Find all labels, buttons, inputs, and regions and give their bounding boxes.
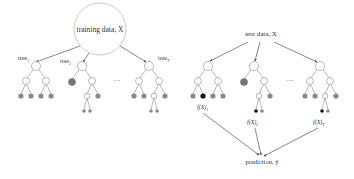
- tree-1: [18, 62, 53, 99]
- test-tree-T: [302, 62, 338, 113]
- arrow-output-2-to-prediction: [255, 128, 261, 155]
- prediction-label: prediction, ŷ: [246, 158, 280, 165]
- training-data-label: training data, X: [77, 25, 124, 34]
- ellipsis-right: ···: [287, 77, 294, 85]
- tree-2: [68, 62, 100, 113]
- test-data-label: test data, X: [245, 30, 277, 38]
- test-tree-2: [240, 62, 272, 113]
- arrow-to-test-tree-2: [255, 42, 260, 61]
- tree-T-label: treeT: [158, 55, 170, 63]
- tree-1-label: tree1: [18, 55, 29, 63]
- training-panel: training data, X tree1 tree2 treeT: [18, 3, 170, 113]
- tree-T: [131, 62, 167, 113]
- output-T-label: f(X)T: [313, 119, 325, 127]
- arrow-to-test-tree-T: [274, 42, 317, 62]
- arrow-to-tree-2: [83, 53, 89, 62]
- random-forest-diagram: training data, X tree1 tree2 treeT: [0, 0, 354, 179]
- output-2-label: f(X)2: [247, 119, 258, 127]
- arrow-to-test-tree-1: [210, 42, 248, 61]
- arrow-output-T-to-prediction: [264, 128, 318, 156]
- prediction-panel: test data, X f(X)1: [190, 30, 338, 165]
- test-tree-1: [190, 62, 225, 99]
- ellipsis-left: ···: [114, 77, 121, 85]
- arrow-to-tree-T: [120, 46, 146, 62]
- tree-2-label: tree2: [60, 58, 71, 66]
- arrow-to-tree-1: [36, 46, 80, 62]
- output-1-label: f(X)1: [197, 104, 208, 112]
